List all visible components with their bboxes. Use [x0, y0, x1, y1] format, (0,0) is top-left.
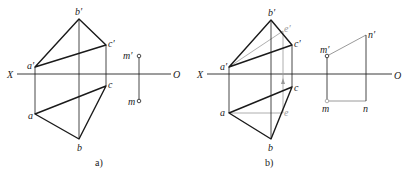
triangle-front-view — [35, 19, 106, 67]
label-b-prime: b′ — [268, 7, 276, 18]
diagram-canvas: X O b′ c′ a′ c a b m′ m a) — [0, 0, 407, 173]
label-c-prime: c′ — [108, 38, 115, 49]
label-m: m — [128, 96, 135, 107]
label-e-prime: e′ — [284, 23, 291, 34]
caption-b: b) — [265, 157, 273, 169]
line-m-prime-n-prime — [327, 35, 366, 56]
label-n-prime: n′ — [368, 29, 376, 40]
axis-label-o: O — [394, 70, 401, 81]
axis-label-x: X — [196, 69, 204, 80]
triangle-front-view — [229, 20, 292, 67]
panel-b: X O b′ e′ c′ a′ — [196, 7, 401, 169]
label-n: n — [363, 103, 368, 114]
label-e: e — [284, 107, 289, 118]
projector-arrow-icon — [281, 78, 285, 84]
axis-label-x: X — [6, 69, 14, 80]
label-a-prime: a′ — [27, 60, 35, 71]
label-c-prime: c′ — [294, 38, 301, 49]
triangle-top-view — [35, 86, 106, 139]
label-m-prime: m′ — [123, 50, 133, 61]
label-a: a — [220, 107, 225, 118]
label-m: m — [322, 103, 329, 114]
label-m-prime: m′ — [320, 44, 330, 55]
point-m — [137, 99, 141, 103]
point-m-prime — [137, 54, 141, 58]
label-a-prime: a′ — [220, 61, 228, 72]
label-b: b — [268, 142, 273, 153]
label-b: b — [77, 142, 82, 153]
panel-a: X O b′ c′ a′ c a b m′ m a) — [6, 6, 180, 169]
caption-a: a) — [95, 157, 103, 169]
axis-label-o: O — [173, 69, 180, 80]
label-c: c — [294, 82, 299, 93]
label-b-prime: b′ — [75, 6, 83, 17]
label-c: c — [108, 79, 113, 90]
label-a: a — [28, 110, 33, 121]
